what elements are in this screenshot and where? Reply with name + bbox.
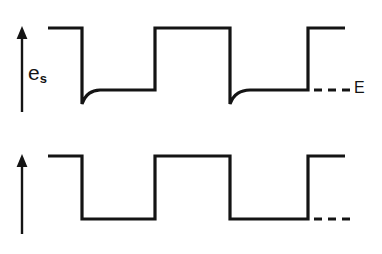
y-axis-label-es: es	[28, 62, 47, 85]
y-axis-label-es-base: e	[28, 61, 40, 84]
reference-level-label-top: E	[354, 80, 365, 96]
waveform-figure: es E ᴠ0 E	[0, 0, 382, 254]
y-axis-label-es-subscript: s	[40, 71, 47, 86]
y-axis-arrow-icon-top	[17, 26, 28, 112]
y-axis-arrow-icon-bottom	[17, 154, 28, 234]
waveform-trace-v0	[48, 156, 345, 219]
waveform-plot-v0	[0, 130, 382, 254]
waveform-trace-es	[48, 28, 345, 104]
waveform-plot-es	[0, 0, 382, 130]
waveform-panel-top: es E	[0, 0, 382, 130]
waveform-panel-bottom: ᴠ0 E	[0, 130, 382, 254]
